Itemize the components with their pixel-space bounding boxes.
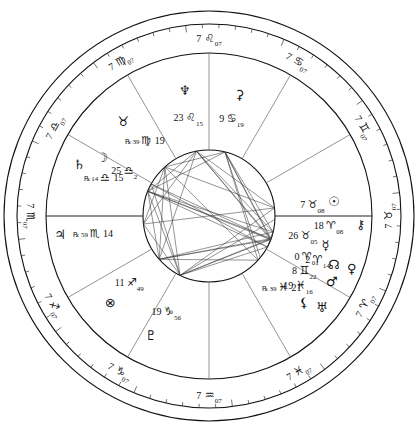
position-degree: 25 bbox=[111, 165, 124, 176]
house-cusp-aquarius: 7 ♒07 bbox=[196, 384, 221, 404]
sign-glyph-leo: ♌ bbox=[186, 112, 196, 125]
part-of-fortune-glyph: ⊗ bbox=[105, 295, 116, 308]
position-degree: 14 bbox=[103, 228, 113, 239]
position-minutes: 39 bbox=[269, 285, 278, 293]
north-node-position: 0 ♈01 bbox=[294, 248, 318, 267]
moon-glyph: ☽ bbox=[96, 150, 108, 163]
cusp-minutes: 07 bbox=[390, 203, 398, 210]
sign-glyph-sagittarius: ♐ bbox=[127, 276, 137, 289]
sign-glyph-scorpio: ♏ bbox=[90, 227, 103, 240]
sign-glyph-aries: ♈ bbox=[326, 220, 336, 233]
sun-glyph: ☉ bbox=[328, 194, 340, 207]
cusp-minutes: 07 bbox=[20, 222, 28, 229]
position-degree: 19 bbox=[152, 306, 165, 317]
jupiter-glyph: ♃ bbox=[54, 228, 66, 241]
neptune-glyph: ♆ bbox=[179, 84, 191, 97]
cusp-degree: 7 bbox=[382, 224, 393, 229]
part-of-fortune-position: 11 ♐49 bbox=[115, 273, 144, 292]
mars-glyph: ♂ bbox=[326, 275, 338, 288]
position-degree: 26 bbox=[288, 230, 301, 241]
position-degree: 21 bbox=[292, 282, 302, 293]
retrograde-marker: ℞ bbox=[73, 231, 81, 239]
pluto-glyph: ♇ bbox=[145, 328, 157, 341]
sign-glyph-libra: ♎ bbox=[124, 164, 134, 177]
sign-glyph-leo: ♌ bbox=[201, 31, 214, 44]
position-minutes: 56 bbox=[174, 314, 181, 322]
position-degree: 19 bbox=[155, 135, 165, 146]
lilith-position: ℞ 39 ♓ 21 bbox=[262, 278, 302, 294]
cusp-minutes: 07 bbox=[215, 397, 222, 405]
position-minutes: 2 bbox=[134, 173, 138, 181]
position-minutes: 15 bbox=[196, 120, 203, 128]
position-degree: 0 bbox=[294, 252, 302, 263]
chiron-position: 18 ♈08 bbox=[314, 217, 343, 236]
sign-glyph-taurus: ♉ bbox=[301, 229, 311, 242]
position-degree: 23 bbox=[174, 113, 187, 124]
position-degree: 8 bbox=[292, 265, 300, 276]
south-node-glyph: ♉ bbox=[118, 114, 130, 127]
position-minutes: 05 bbox=[311, 238, 318, 246]
neptune-position: 23 ♌15 bbox=[174, 109, 203, 128]
position-minutes: 39 bbox=[133, 138, 142, 146]
sign-glyph-aries: ♈ bbox=[302, 251, 312, 264]
house-cusp-scorpio: 7 ♏07 bbox=[20, 203, 40, 228]
pluto-position: 19 ♑56 bbox=[152, 302, 181, 321]
house-cusp-taurus: 7 ♉07 bbox=[377, 203, 397, 228]
lilith-glyph: ⚸ bbox=[299, 295, 309, 308]
sign-glyph-capricorn: ♑ bbox=[164, 305, 174, 318]
north-node-glyph: ☊ bbox=[328, 258, 340, 271]
position-minutes: 19 bbox=[237, 120, 244, 128]
position-degree: 9 bbox=[219, 113, 227, 124]
position-minutes: 01 bbox=[312, 259, 319, 267]
uranus-glyph: ♅ bbox=[316, 301, 328, 314]
position-minutes: 14 bbox=[91, 175, 100, 183]
sign-glyph-taurus: ♉ bbox=[308, 199, 318, 212]
sign-glyph-virgo: ♍ bbox=[141, 134, 154, 147]
house-cusp-leo: 7 ♌07 bbox=[196, 27, 221, 47]
moon-position: 25 ♎2 bbox=[111, 161, 137, 180]
position-minutes: 08 bbox=[336, 228, 343, 236]
position-minutes: 08 bbox=[318, 207, 325, 215]
sign-glyph-taurus: ♉ bbox=[381, 210, 394, 223]
position-degree: 18 bbox=[314, 221, 327, 232]
cusp-minutes: 07 bbox=[215, 40, 222, 48]
retrograde-marker: ℞ bbox=[125, 138, 133, 146]
sign-glyph-cancer: ♋ bbox=[227, 112, 237, 125]
position-minutes: 59 bbox=[81, 231, 90, 239]
position-degree: 7 bbox=[300, 200, 308, 211]
retrograde-marker: ℞ bbox=[262, 285, 270, 293]
sign-glyph-scorpio: ♏ bbox=[24, 208, 37, 221]
ceres-glyph: ⚳ bbox=[235, 87, 245, 100]
position-degree: 11 bbox=[115, 277, 127, 288]
retrograde-marker: ℞ bbox=[84, 175, 92, 183]
south-node-position: ℞ 39 ♍ 19 bbox=[125, 131, 165, 147]
position-minutes: 49 bbox=[137, 284, 144, 292]
natal-chart-wheel: 7 ♉077 ♊077 ♋077 ♌077 ♍077 ♎077 ♏077 ♐07… bbox=[0, 0, 418, 431]
sign-glyph-pisces: ♓ bbox=[278, 281, 291, 294]
sun-position: 7 ♉08 bbox=[300, 196, 324, 215]
jupiter-position: ℞ 59 ♏ 14 bbox=[73, 224, 113, 240]
sign-glyph-aquarius: ♒ bbox=[201, 388, 214, 401]
venus-glyph: ♀ bbox=[347, 261, 357, 274]
chiron-glyph: ⚷ bbox=[356, 217, 366, 230]
ceres-position: 9 ♋19 bbox=[219, 109, 243, 128]
